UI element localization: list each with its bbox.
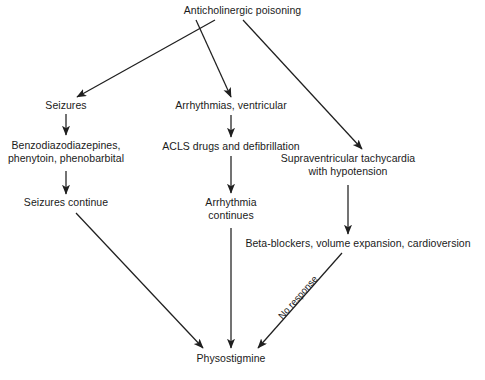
node-physostigmine: Physostigmine — [171, 352, 291, 365]
node-seizures-line-1: Seizures — [6, 99, 126, 112]
node-arrhythmias-line-1: Arrhythmias, ventricular — [161, 99, 301, 112]
node-physostigmine-line-1: Physostigmine — [171, 352, 291, 365]
node-beta-line-1: Beta-blockers, volume expansion, cardiov… — [233, 237, 483, 250]
node-seizures: Seizures — [6, 99, 126, 112]
node-benzodiazepines: Benzodiazodiazepines, phenytoin, phenoba… — [1, 139, 131, 165]
edge-root-to-seizures — [77, 20, 215, 97]
node-anticholinergic-poisoning: Anticholinergic poisoning — [0, 4, 485, 17]
node-svt-line-1: Supraventricular tachycardia — [278, 152, 418, 165]
node-beta-blockers: Beta-blockers, volume expansion, cardiov… — [233, 237, 483, 250]
edge-seizures-continue-to-physostigmine — [76, 213, 203, 348]
flowchart-canvas: Anticholinergic poisoning Seizures Benzo… — [0, 0, 485, 380]
node-supraventricular-tachycardia: Supraventricular tachycardia with hypote… — [278, 152, 418, 178]
node-arrhythmia-continues: Arrhythmia continues — [181, 196, 281, 222]
node-benzo-line-2: phenytoin, phenobarbital — [1, 152, 131, 165]
node-seizures-continue-line-1: Seizures continue — [6, 196, 126, 209]
edge-root-to-arrhythmias — [196, 20, 231, 97]
node-root-line-1: Anticholinergic poisoning — [0, 4, 485, 17]
node-seizures-continue: Seizures continue — [6, 196, 126, 209]
node-arrhythmia-continues-line-1: Arrhythmia — [181, 196, 281, 209]
node-arrhythmias-ventricular: Arrhythmias, ventricular — [161, 99, 301, 112]
node-benzo-line-1: Benzodiazodiazepines, — [1, 139, 131, 152]
edge-root-to-svt — [243, 20, 362, 149]
node-arrhythmia-continues-line-2: continues — [181, 209, 281, 222]
flowchart-edges — [0, 0, 485, 380]
node-svt-line-2: with hypotension — [278, 165, 418, 178]
